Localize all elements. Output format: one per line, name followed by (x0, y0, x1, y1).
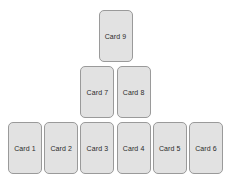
card-label: Card 1 (14, 145, 36, 152)
card-row-top: Card 9 (0, 10, 231, 62)
card-1[interactable]: Card 1 (8, 122, 42, 174)
card-stack-diagram: Card 9 Card 7 Card 8 Card 1 Card 2 Card … (0, 0, 231, 183)
card-label: Card 7 (87, 89, 109, 96)
card-label: Card 6 (195, 145, 217, 152)
card-3[interactable]: Card 3 (80, 122, 114, 174)
card-9[interactable]: Card 9 (99, 10, 133, 62)
card-2[interactable]: Card 2 (44, 122, 78, 174)
card-label: Card 5 (159, 145, 181, 152)
card-row-middle: Card 7 Card 8 (0, 66, 231, 118)
card-label: Card 2 (50, 145, 72, 152)
card-6[interactable]: Card 6 (189, 122, 223, 174)
card-label: Card 8 (123, 89, 145, 96)
card-8[interactable]: Card 8 (117, 66, 151, 118)
card-7[interactable]: Card 7 (80, 66, 114, 118)
card-4[interactable]: Card 4 (117, 122, 151, 174)
card-5[interactable]: Card 5 (153, 122, 187, 174)
card-label: Card 9 (105, 33, 127, 40)
card-label: Card 3 (87, 145, 109, 152)
card-row-bottom: Card 1 Card 2 Card 3 Card 4 Card 5 Card … (0, 122, 231, 174)
card-label: Card 4 (123, 145, 145, 152)
